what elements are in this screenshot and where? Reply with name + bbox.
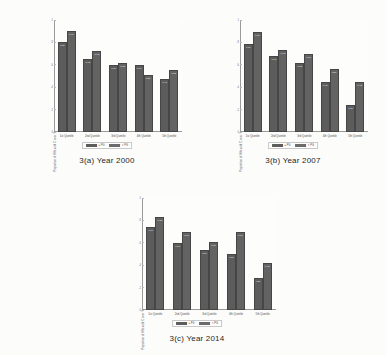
bar-group: 0.600.62 xyxy=(109,20,127,132)
bar[interactable]: 0.70 xyxy=(236,232,245,310)
x-axis-label: 5th Quintile xyxy=(348,134,362,138)
bar-value-label: 0.56 xyxy=(332,71,337,74)
legend-swatch-icon xyxy=(109,144,120,147)
bar-groups: 0.790.890.680.730.620.700.450.560.240.45 xyxy=(240,20,368,132)
bar-value-label: 0.73 xyxy=(281,52,286,55)
bar[interactable]: 0.56 xyxy=(330,69,339,132)
y-axis-title: Proportion of HHs with C over Y xyxy=(142,310,145,350)
bar[interactable]: 0.60 xyxy=(173,243,182,310)
bar-value-label: 0.90 xyxy=(69,33,74,36)
x-axis-labels: 1st Quintile2nd Quintile3rd Quintile4th … xyxy=(54,132,182,138)
bar-value-label: 0.45 xyxy=(357,84,362,87)
bar-group: 0.450.56 xyxy=(321,20,339,132)
bar[interactable]: 0.50 xyxy=(227,254,236,310)
bar[interactable]: 0.42 xyxy=(263,263,272,310)
bar[interactable]: 0.62 xyxy=(118,63,127,132)
bar[interactable]: 0.70 xyxy=(304,54,313,132)
bar-value-label: 0.55 xyxy=(171,72,176,75)
y-axis-title: Proportion of HHs with C over Y xyxy=(54,132,57,172)
x-axis-label: 4th Quintile xyxy=(137,134,151,138)
legend-item-0: ≥ PG xyxy=(176,322,194,325)
bar-value-label: 0.60 xyxy=(175,245,180,248)
bar[interactable]: 0.73 xyxy=(278,50,287,132)
bar-groups: 0.800.900.650.720.600.620.600.510.470.55 xyxy=(54,20,182,132)
bar-group: 0.680.73 xyxy=(269,20,287,132)
panel-c: Proportion of HHs with C over Y 0.2.4.6.… xyxy=(108,192,286,352)
bar[interactable]: 0.54 xyxy=(200,250,209,310)
bar-group: 0.740.83 xyxy=(146,198,164,310)
x-axis-label: 1st Quintile xyxy=(246,134,260,138)
bar[interactable]: 0.79 xyxy=(244,44,253,132)
legend-item-1: < PG xyxy=(109,144,127,147)
bar[interactable]: 0.45 xyxy=(355,82,364,132)
bar-group: 0.290.42 xyxy=(254,198,272,310)
bar-value-label: 0.45 xyxy=(323,84,328,87)
y-axis-title: Proportion of HHs with C over Y xyxy=(240,132,243,172)
bar-value-label: 0.79 xyxy=(246,46,251,49)
x-axis-label: 3rd Quintile xyxy=(297,134,311,138)
legend-label: < PG xyxy=(308,144,314,147)
panel-a-plot: Proportion of HHs with C over Y 0.2.4.6.… xyxy=(54,20,182,132)
bar[interactable]: 0.83 xyxy=(155,217,164,310)
x-axis-label: 5th Quintile xyxy=(256,312,270,316)
bar-group: 0.790.89 xyxy=(244,20,262,132)
bar[interactable]: 0.62 xyxy=(295,63,304,132)
legend-item-0: ≥ PG xyxy=(272,144,290,147)
bar-value-label: 0.74 xyxy=(149,229,154,232)
bar-value-label: 0.47 xyxy=(162,81,167,84)
legend-label: < PG xyxy=(212,322,218,325)
legend-label: ≥ PG xyxy=(99,144,105,147)
panel-b-caption: 3(b) Year 2007 xyxy=(208,156,378,165)
bar-value-label: 0.68 xyxy=(272,58,277,61)
legend-swatch-icon xyxy=(176,322,187,325)
bar[interactable]: 0.60 xyxy=(135,65,144,132)
bar-group: 0.620.70 xyxy=(295,20,313,132)
bar-group: 0.470.55 xyxy=(160,20,178,132)
bar[interactable]: 0.74 xyxy=(146,227,155,310)
bar[interactable]: 0.80 xyxy=(58,42,67,132)
panel-c-caption: 3(c) Year 2014 xyxy=(108,334,286,343)
x-axis-labels: 1st Quintile2nd Quintile3rd Quintile4th … xyxy=(240,132,368,138)
bar[interactable]: 0.90 xyxy=(67,31,76,132)
legend-swatch-icon xyxy=(272,144,283,147)
bar-group: 0.500.70 xyxy=(227,198,245,310)
bar[interactable]: 0.29 xyxy=(254,278,263,310)
bar[interactable]: 0.45 xyxy=(321,82,330,132)
bar[interactable]: 0.70 xyxy=(182,232,191,310)
x-axis-label: 1st Quintile xyxy=(148,312,162,316)
legend-swatch-icon xyxy=(86,144,97,147)
bar-value-label: 0.42 xyxy=(265,265,270,268)
legend-swatch-icon xyxy=(199,322,210,325)
bar[interactable]: 0.47 xyxy=(160,79,169,132)
bar-value-label: 0.65 xyxy=(86,61,91,64)
bar-group: 0.600.70 xyxy=(173,198,191,310)
legend-item-0: ≥ PG xyxy=(86,144,104,147)
x-axis-label: 5th Quintile xyxy=(162,134,176,138)
panel-c-plot: Proportion of HHs with C over Y 0.2.4.6.… xyxy=(142,198,276,310)
bar-group: 0.540.61 xyxy=(200,198,218,310)
bar-value-label: 0.72 xyxy=(95,53,100,56)
bar[interactable]: 0.65 xyxy=(83,59,92,132)
x-axis-label: 3rd Quintile xyxy=(111,134,125,138)
bar[interactable]: 0.24 xyxy=(346,105,355,132)
bar-value-label: 0.89 xyxy=(255,34,260,37)
bar[interactable]: 0.60 xyxy=(109,65,118,132)
legend-label: ≥ PG xyxy=(189,322,195,325)
x-axis-label: 2nd Quintile xyxy=(271,134,286,138)
panel-a-legend: ≥ PG < PG xyxy=(82,142,132,149)
bar[interactable]: 0.89 xyxy=(253,32,262,132)
bar[interactable]: 0.68 xyxy=(269,56,278,132)
bar[interactable]: 0.72 xyxy=(92,51,101,132)
bar-group: 0.800.90 xyxy=(58,20,76,132)
legend-item-1: < PG xyxy=(295,144,313,147)
bar-group: 0.240.45 xyxy=(346,20,364,132)
legend-label: < PG xyxy=(122,144,128,147)
bar[interactable]: 0.51 xyxy=(144,75,153,132)
bar[interactable]: 0.55 xyxy=(169,70,178,132)
x-axis-label: 1st Quintile xyxy=(60,134,74,138)
panel-c-legend: ≥ PG < PG xyxy=(172,320,222,327)
bar[interactable]: 0.61 xyxy=(209,242,218,310)
bar-value-label: 0.62 xyxy=(120,65,125,68)
bar-value-label: 0.80 xyxy=(60,44,65,47)
bar-value-label: 0.50 xyxy=(229,256,234,259)
